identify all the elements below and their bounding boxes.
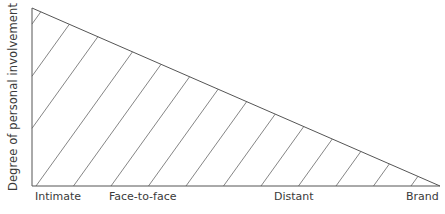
hatch-line bbox=[149, 89, 219, 186]
hatch-lines bbox=[32, 12, 418, 186]
hatch-line bbox=[32, 37, 98, 129]
hatch-line bbox=[411, 176, 418, 186]
hatch-line bbox=[32, 12, 41, 24]
hatch-line bbox=[261, 127, 304, 186]
x-label-intimate: Intimate bbox=[35, 190, 81, 203]
involvement-triangle-diagram bbox=[0, 0, 445, 214]
hatch-line bbox=[299, 139, 333, 186]
hatch-line bbox=[32, 24, 69, 76]
hatch-line bbox=[374, 164, 390, 186]
y-axis-label-text: Degree of personal involvement bbox=[6, 3, 20, 191]
hatch-line bbox=[224, 114, 276, 186]
hatch-line bbox=[111, 77, 190, 186]
hatch-line bbox=[74, 64, 162, 186]
hatch-line bbox=[336, 151, 361, 186]
x-label-face-to-face: Face-to-face bbox=[109, 190, 177, 203]
hatch-line bbox=[186, 102, 247, 186]
hatch-line bbox=[36, 52, 133, 186]
x-label-distant: Distant bbox=[274, 190, 314, 203]
x-label-brand: Brand bbox=[406, 190, 439, 203]
